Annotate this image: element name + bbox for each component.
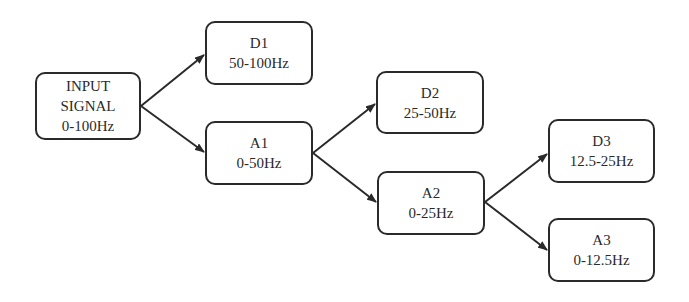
node-range: 25-50Hz — [404, 103, 457, 123]
edge-input-to-a1 — [141, 106, 204, 152]
node-a1: A1 0-50Hz — [205, 121, 313, 185]
node-range: 0-50Hz — [237, 153, 282, 173]
node-a3: A3 0-12.5Hz — [548, 218, 655, 282]
node-d2: D2 25-50Hz — [376, 71, 484, 134]
wavelet-decomposition-diagram: INPUT SIGNAL 0-100Hz D1 50-100Hz A1 0-50… — [0, 0, 689, 302]
node-d3: D3 12.5-25Hz — [548, 119, 655, 183]
edge-a1-to-a2 — [313, 153, 376, 202]
node-label: D3 — [592, 131, 610, 151]
node-input-signal: INPUT SIGNAL 0-100Hz — [35, 72, 141, 140]
node-label: D1 — [250, 33, 268, 53]
node-label: SIGNAL — [61, 96, 116, 116]
edge-a2-to-d3 — [485, 154, 547, 202]
node-label: INPUT — [66, 76, 110, 96]
node-a2: A2 0-25Hz — [377, 171, 485, 235]
node-label: A2 — [422, 183, 440, 203]
node-range: 50-100Hz — [229, 53, 289, 73]
node-label: A3 — [592, 230, 610, 250]
node-d1: D1 50-100Hz — [205, 21, 313, 85]
edge-a2-to-a3 — [485, 202, 547, 250]
edge-a1-to-d2 — [313, 104, 375, 153]
node-label: D2 — [421, 83, 439, 103]
node-range: 0-12.5Hz — [573, 250, 629, 270]
node-range: 12.5-25Hz — [570, 151, 634, 171]
node-range: 0-100Hz — [62, 116, 115, 136]
node-range: 0-25Hz — [409, 203, 454, 223]
edge-input-to-d1 — [141, 55, 204, 106]
node-label: A1 — [250, 133, 268, 153]
